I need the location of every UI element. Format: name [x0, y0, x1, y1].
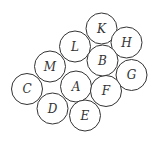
- circle-m: M: [35, 51, 66, 82]
- circle-label: H: [120, 36, 132, 50]
- circle-label: L: [70, 40, 79, 54]
- circle-b: B: [87, 45, 118, 76]
- circle-label: M: [43, 60, 57, 74]
- circle-label: C: [22, 82, 31, 96]
- circle-d: D: [37, 93, 68, 124]
- circle-label: D: [47, 102, 58, 116]
- circle-label: F: [101, 84, 111, 98]
- circle-f: F: [91, 76, 122, 107]
- circle-a: A: [61, 71, 92, 102]
- circle-label: K: [96, 22, 107, 36]
- circle-label: E: [80, 109, 90, 123]
- circle-label: A: [71, 80, 81, 94]
- circle-label: B: [97, 54, 107, 68]
- circle-l: L: [60, 31, 91, 62]
- circle-e: E: [70, 100, 101, 131]
- circle-arrangement-diagram: KHLBGMAFCDE: [0, 0, 156, 141]
- circle-label: G: [127, 68, 137, 82]
- circle-c: C: [12, 74, 43, 105]
